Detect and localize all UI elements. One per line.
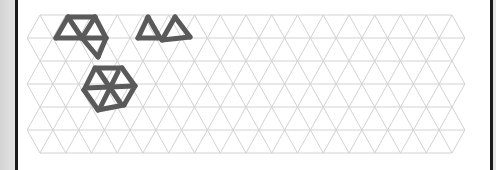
grid-line <box>117 130 130 153</box>
grid-line <box>439 38 452 61</box>
grid-line <box>310 38 323 61</box>
grid-line <box>452 61 465 84</box>
grid-line <box>195 84 208 107</box>
grid-line <box>452 38 465 61</box>
grid-line <box>66 84 79 107</box>
grid-line <box>66 61 79 84</box>
grid-line <box>53 84 66 107</box>
grid-line <box>195 130 208 153</box>
grid-line <box>362 61 375 84</box>
grid-line <box>298 107 311 130</box>
grid-line <box>182 107 195 130</box>
grid-line <box>362 84 375 107</box>
grid-line <box>298 84 311 107</box>
grid-line <box>246 130 259 153</box>
grid-line <box>66 107 79 130</box>
grid-line <box>439 61 452 84</box>
grid-line <box>156 130 169 153</box>
grid-line <box>117 107 130 130</box>
grid-line <box>220 130 233 153</box>
grid-line <box>336 15 349 38</box>
grid-line <box>426 130 439 153</box>
grid-line <box>375 84 388 107</box>
grid-line <box>349 15 362 38</box>
grid-line <box>362 15 375 38</box>
grid-line <box>349 130 362 153</box>
grid-line <box>27 84 40 107</box>
grid-line <box>40 38 53 61</box>
grid-line <box>92 130 105 153</box>
grid-line <box>259 38 272 61</box>
grid-line <box>336 107 349 130</box>
grid-line <box>207 15 220 38</box>
grid-line <box>143 84 156 107</box>
grid-line <box>336 84 349 107</box>
grid-line <box>259 107 272 130</box>
grid-line <box>27 107 40 130</box>
grid-line <box>310 15 323 38</box>
grid-line <box>272 61 285 84</box>
grid-line <box>362 107 375 130</box>
grid-line <box>413 84 426 107</box>
grid-line <box>104 130 117 153</box>
grid-line <box>413 38 426 61</box>
grid-line <box>285 61 298 84</box>
grid-line <box>169 130 182 153</box>
grid-line <box>143 130 156 153</box>
grid-line <box>401 15 414 38</box>
grid-line <box>401 38 414 61</box>
grid-line <box>182 61 195 84</box>
grid-line <box>246 38 259 61</box>
grid-line <box>401 84 414 107</box>
grid-line <box>233 15 246 38</box>
grid-line <box>207 84 220 107</box>
grid-line <box>452 130 465 153</box>
grid-line <box>388 61 401 84</box>
grid-line <box>53 38 66 61</box>
grid-line <box>27 15 40 38</box>
grid-line <box>375 130 388 153</box>
grid-line <box>169 61 182 84</box>
grid-line <box>117 15 130 38</box>
grid-line <box>375 15 388 38</box>
grid-line <box>156 107 169 130</box>
grid-line <box>169 84 182 107</box>
grid-line <box>401 61 414 84</box>
grid-line <box>40 107 53 130</box>
pen-stroke <box>122 68 135 86</box>
grid-line <box>362 38 375 61</box>
grid-line <box>375 107 388 130</box>
grid-line <box>259 130 272 153</box>
grid-line <box>130 38 143 61</box>
grid-line <box>439 107 452 130</box>
grid-line <box>53 61 66 84</box>
grid-line <box>156 84 169 107</box>
grid-line <box>233 61 246 84</box>
grid-line <box>426 107 439 130</box>
grid-line <box>298 38 311 61</box>
grid-line <box>298 61 311 84</box>
grid-line <box>66 130 79 153</box>
grid-line <box>259 61 272 84</box>
grid-line <box>182 130 195 153</box>
grid-line <box>388 107 401 130</box>
grid-line <box>220 84 233 107</box>
grid-line <box>130 130 143 153</box>
grid-line <box>246 15 259 38</box>
grid-line <box>310 130 323 153</box>
grid-line <box>117 38 130 61</box>
grid-line <box>439 15 452 38</box>
grid-line <box>195 38 208 61</box>
pen-stroke <box>95 17 106 38</box>
grid-line <box>195 61 208 84</box>
grid-line <box>220 61 233 84</box>
grid-line <box>220 15 233 38</box>
grid-line <box>349 38 362 61</box>
grid-line <box>272 84 285 107</box>
grid-line <box>285 38 298 61</box>
grid-line <box>310 61 323 84</box>
grid-line <box>336 130 349 153</box>
grid-line <box>426 84 439 107</box>
grid-line <box>220 107 233 130</box>
drawing-canvas[interactable] <box>0 0 496 170</box>
